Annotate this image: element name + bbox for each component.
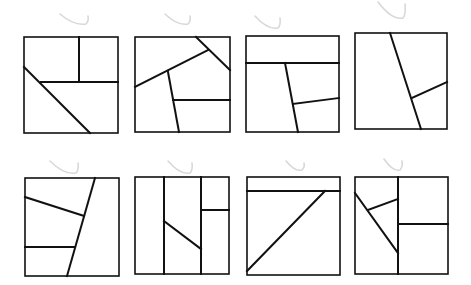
figure-canvas [0,0,471,285]
partition-line [135,50,208,87]
partition-line [293,98,339,104]
pencil-mark-icon [60,14,88,24]
pencil-mark-icon [378,2,405,18]
panel-3 [246,16,339,132]
pencil-mark-icon [50,161,78,173]
partition-line [390,33,421,129]
panel-border [246,36,339,132]
pencil-mark-icon [255,16,280,28]
pencil-mark-icon [165,14,190,24]
panel-2 [135,14,230,132]
partition-line [285,63,298,132]
panel-4 [355,2,447,129]
partition-line [247,191,325,271]
partition-line [368,199,398,210]
pencil-mark-icon [168,161,192,173]
panel-border [355,33,447,129]
pencil-mark-icon [384,159,402,170]
partition-line [24,67,90,133]
partition-line [164,221,201,249]
panel-7 [247,161,340,275]
panel-border [355,177,448,274]
panel-border [24,37,118,133]
partition-line [25,197,84,216]
partition-line [67,178,95,276]
panel-8 [355,159,448,274]
panel-1 [24,14,118,133]
pencil-mark-icon [286,161,304,170]
panel-border [135,177,229,274]
partition-line [168,72,179,132]
panel-5 [25,161,119,276]
panel-border [135,37,230,132]
panel-6 [135,161,229,274]
partition-line [412,82,447,98]
